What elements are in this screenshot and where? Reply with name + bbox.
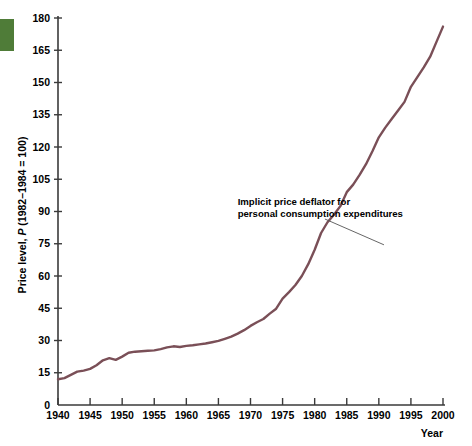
y-tick-label: 60	[38, 270, 50, 282]
x-tick-label: 1995	[399, 409, 423, 421]
x-tick-label: 1955	[143, 409, 167, 421]
chart-canvas: 0153045607590105120135150165180 19401945…	[0, 0, 472, 446]
x-tick-label: 1985	[335, 409, 359, 421]
annotation-leader-line	[325, 219, 384, 245]
y-tick-label: 150	[32, 76, 50, 88]
y-tick-label: 15	[38, 366, 50, 378]
y-tick-label: 180	[32, 12, 50, 24]
x-tick-label: 1975	[271, 409, 295, 421]
x-tick-label: 1960	[175, 409, 199, 421]
x-axis-title: Year	[421, 427, 443, 439]
y-tick-label: 30	[38, 334, 50, 346]
x-tick-label: 2000	[431, 409, 455, 421]
x-tick-label: 1945	[78, 409, 102, 421]
y-axis-title: Price level, P (1982–1984 = 100)	[16, 137, 28, 294]
y-tick-label: 120	[32, 141, 50, 153]
y-tick-label: 135	[32, 108, 50, 120]
x-axis: 1940194519501955196019651970197519801985…	[46, 398, 455, 421]
y-tick-label: 45	[38, 302, 50, 314]
y-tick-label: 165	[32, 44, 50, 56]
y-axis: 0153045607590105120135150165180	[32, 12, 62, 411]
annotation-text: Implicit price deflator forpersonal cons…	[238, 196, 403, 219]
x-tick-label: 1980	[303, 409, 327, 421]
y-tick-label: 90	[38, 205, 50, 217]
y-tick-label: 75	[38, 237, 50, 249]
x-tick-label: 1940	[46, 409, 70, 421]
x-tick-label: 1950	[110, 409, 134, 421]
price-level-chart-figure: 0153045607590105120135150165180 19401945…	[0, 0, 472, 446]
green-edge-marker	[0, 19, 15, 51]
x-tick-label: 1970	[239, 409, 263, 421]
y-tick-label: 105	[32, 173, 50, 185]
x-tick-label: 1965	[207, 409, 231, 421]
x-tick-label: 1990	[367, 409, 391, 421]
